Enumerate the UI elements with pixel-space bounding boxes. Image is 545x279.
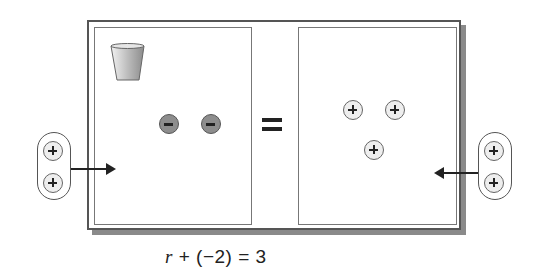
arrowhead-right-icon xyxy=(106,163,116,175)
arrow-left-icon xyxy=(440,172,478,174)
negative-counter xyxy=(159,114,179,134)
positive-counter xyxy=(385,100,405,120)
equals-sign xyxy=(262,116,282,132)
left-added-counter-group xyxy=(37,132,71,200)
equation-rest: + (−2) = 3 xyxy=(173,246,267,267)
equation-variable: r xyxy=(165,246,173,267)
arrowhead-left-icon xyxy=(434,167,444,179)
right-added-counter-group xyxy=(478,132,512,200)
positive-counter xyxy=(43,141,63,161)
equation: r + (−2) = 3 xyxy=(165,246,267,268)
negative-counter xyxy=(201,114,221,134)
positive-counter xyxy=(484,173,504,193)
positive-counter xyxy=(343,100,363,120)
positive-counter xyxy=(484,141,504,161)
arrow-right-icon xyxy=(71,168,109,170)
cup-icon xyxy=(109,42,151,84)
right-side-mat xyxy=(298,27,457,225)
left-side-mat xyxy=(94,27,252,225)
positive-counter xyxy=(43,173,63,193)
positive-counter xyxy=(364,140,384,160)
